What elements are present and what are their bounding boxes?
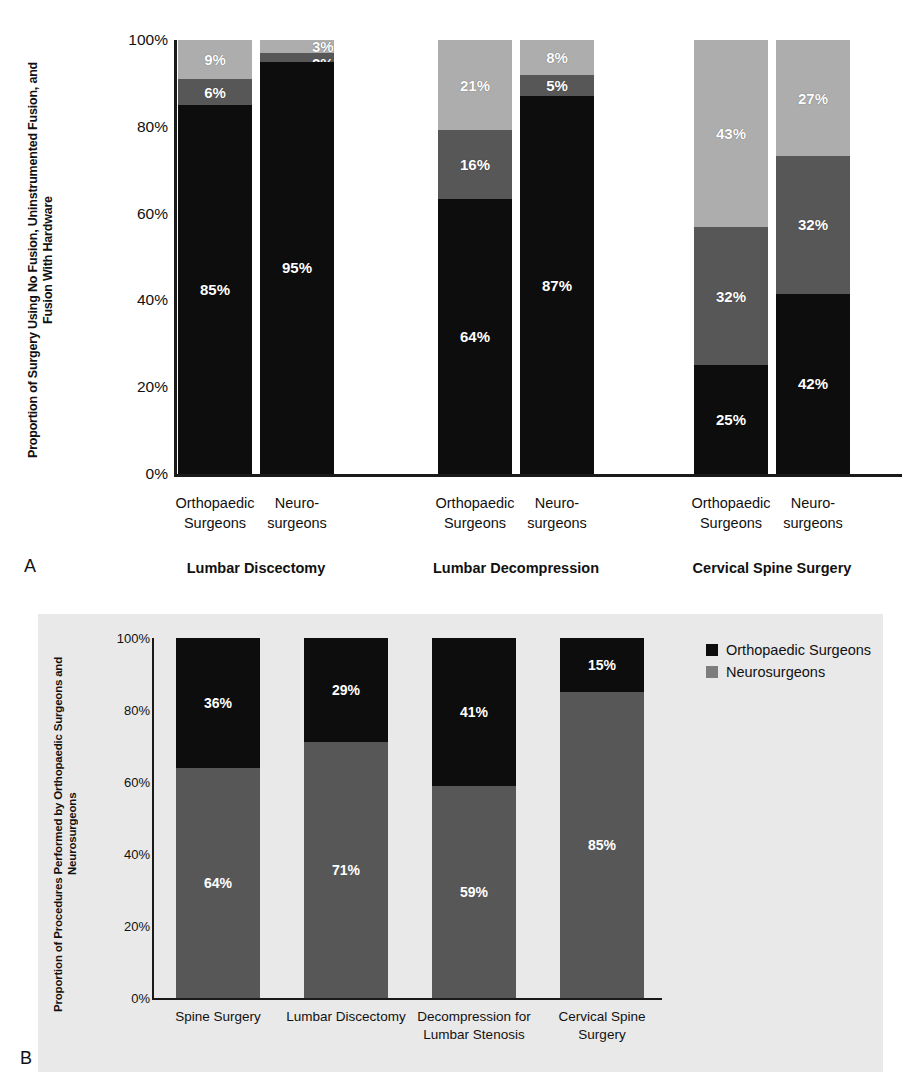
panel-b-bar-segment[interactable]: 36% xyxy=(176,638,260,768)
panel-b-legend: Orthopaedic SurgeonsNeurosurgeons xyxy=(706,642,871,686)
panel-b-bar-segment[interactable]: 41% xyxy=(432,638,516,786)
panel-b-plot-area: 36%64%29%71%41%59%15%85% xyxy=(154,638,662,998)
panel-b-segment-value: 15% xyxy=(588,657,616,673)
panel-a-stacked-bar[interactable]: 27%32%42% xyxy=(776,40,850,474)
panel-a-bar-segment[interactable]: 25% xyxy=(694,365,768,474)
panel-b-y-tick: 40% xyxy=(124,847,150,862)
panel-b-bar-segment[interactable]: 85% xyxy=(560,692,644,998)
panel-a-bar-group: 9%6%85%3%2%95% xyxy=(178,40,338,474)
panel-b-legend-label: Neurosurgeons xyxy=(726,664,825,680)
panel-a-bar-segment[interactable]: 64% xyxy=(438,199,512,474)
panel-b-stacked-bar-chart: Proportion of Procedures Performed by Or… xyxy=(0,600,913,1086)
panel-b-category-label-line1: Lumbar Discectomy xyxy=(276,1008,416,1026)
panel-b-y-axis-label: Proportion of Procedures Performed by Or… xyxy=(52,654,86,1014)
panel-a-bar-segment[interactable]: 32% xyxy=(776,156,850,294)
panel-b-segment-value: 29% xyxy=(332,682,360,698)
panel-a-bar-segment[interactable]: 21% xyxy=(438,40,512,130)
panel-b-stacked-bar[interactable]: 15%85% xyxy=(560,638,644,998)
panel-b-stacked-bar[interactable]: 41%59% xyxy=(432,638,516,998)
panel-a-bar-segment[interactable]: 9% xyxy=(178,40,252,79)
panel-a-segment-value: 87% xyxy=(542,277,572,294)
panel-a-segment-value: 95% xyxy=(282,259,312,276)
panel-b-y-tick: 60% xyxy=(124,775,150,790)
panel-b-bar-segment[interactable]: 29% xyxy=(304,638,388,742)
panel-a-segment-value: 27% xyxy=(798,90,828,107)
panel-b-y-tick: 20% xyxy=(124,919,150,934)
panel-b-stacked-bar[interactable]: 29%71% xyxy=(304,638,388,998)
panel-a-bar-label: Neuro-surgeons xyxy=(242,494,352,533)
panel-a-bar-segment[interactable]: 27% xyxy=(776,40,850,156)
panel-a-stacked-bar-chart: Proportion of Surgery Using No Fusion, U… xyxy=(0,0,913,600)
panel-a-bar-label-line2: surgeons xyxy=(502,514,612,534)
panel-a-y-tick: 60% xyxy=(137,205,168,223)
panel-a-bar-label-line2: surgeons xyxy=(758,514,868,534)
panel-a-stacked-bar[interactable]: 3%2%95% xyxy=(260,40,334,474)
legend-swatch-icon xyxy=(706,666,718,678)
panel-b-category-label-line2: Surgery xyxy=(532,1026,672,1044)
panel-a-segment-value: 6% xyxy=(204,84,226,101)
panel-a-bar-segment[interactable]: 85% xyxy=(178,105,252,474)
panel-a-group-label: Lumbar Decompression xyxy=(416,560,616,576)
panel-a-y-tick: 40% xyxy=(137,291,168,309)
panel-b-category-label: Lumbar Discectomy xyxy=(276,1008,416,1026)
panel-b-bar-segment[interactable]: 71% xyxy=(304,742,388,998)
panel-a-segment-value: 9% xyxy=(204,51,226,68)
panel-b-category-label-line1: Cervical Spine xyxy=(532,1008,672,1026)
panel-a-stacked-bar[interactable]: 43%32%25% xyxy=(694,40,768,474)
panel-b-legend-label: Orthopaedic Surgeons xyxy=(726,642,871,658)
panel-a-y-tick: 20% xyxy=(137,378,168,396)
panel-b-category-label: Spine Surgery xyxy=(148,1008,288,1026)
panel-b-segment-value: 59% xyxy=(460,884,488,900)
panel-a-segment-value: 16% xyxy=(460,156,490,173)
panel-a-bar-segment[interactable]: 6% xyxy=(178,79,252,105)
panel-a-y-tick: 80% xyxy=(137,118,168,136)
panel-a-plot-area: 9%6%85%3%2%95%21%16%64%8%5%87%43%32%25%2… xyxy=(176,40,902,474)
panel-b-bar-segment[interactable]: 64% xyxy=(176,768,260,998)
panel-b-legend-item: Neurosurgeons xyxy=(706,664,871,680)
panel-a-stacked-bar[interactable]: 21%16%64% xyxy=(438,40,512,474)
panel-b-stacked-bar[interactable]: 36%64% xyxy=(176,638,260,998)
panel-a-segment-value: 43% xyxy=(716,125,746,142)
panel-a-bar-label: Neuro-surgeons xyxy=(502,494,612,533)
panel-b-category-label-line1: Spine Surgery xyxy=(148,1008,288,1026)
panel-b-bar-segment[interactable]: 15% xyxy=(560,638,644,692)
panel-a-bar-segment[interactable]: 8% xyxy=(520,40,594,75)
panel-a-bar-group: 21%16%64%8%5%87% xyxy=(438,40,598,474)
panel-b-y-tick: 80% xyxy=(124,703,150,718)
panel-a-x-axis-line xyxy=(174,474,902,477)
panel-a-stacked-bar[interactable]: 9%6%85% xyxy=(178,40,252,474)
panel-b-legend-item: Orthopaedic Surgeons xyxy=(706,642,871,658)
panel-a-segment-value: 21% xyxy=(460,77,490,94)
panel-a-bar-segment[interactable]: 32% xyxy=(694,227,768,366)
panel-a-bar-segment[interactable]: 16% xyxy=(438,130,512,199)
panel-a-bar-segment[interactable]: 95% xyxy=(260,62,334,474)
panel-a-bar-label-line1: Neuro- xyxy=(502,494,612,514)
panel-a-segment-value: 42% xyxy=(798,375,828,392)
panel-a-bar-label-line1: Neuro- xyxy=(758,494,868,514)
panel-b-y-tick: 0% xyxy=(131,991,150,1006)
panel-a-bar-segment[interactable]: 3% xyxy=(260,40,334,53)
panel-b-segment-value: 64% xyxy=(204,875,232,891)
panel-b-segment-value: 71% xyxy=(332,862,360,878)
panel-a-bar-segment[interactable]: 5% xyxy=(520,75,594,97)
panel-a-segment-value: 5% xyxy=(546,77,568,94)
panel-a-bar-segment[interactable]: 87% xyxy=(520,96,594,474)
panel-a-segment-value: 8% xyxy=(546,49,568,66)
panel-a-bar-segment[interactable]: 43% xyxy=(694,40,768,227)
panel-a-stacked-bar[interactable]: 8%5%87% xyxy=(520,40,594,474)
panel-b-category-label: Cervical SpineSurgery xyxy=(532,1008,672,1044)
panel-a-segment-value: 25% xyxy=(716,411,746,428)
panel-b-y-axis-ticks: 0%20%40%60%80%100% xyxy=(88,638,150,998)
panel-b-category-label-line1: Decompression for xyxy=(404,1008,544,1026)
panel-a-bar-segment[interactable]: 42% xyxy=(776,294,850,474)
panel-a-y-tick: 0% xyxy=(146,465,168,483)
panel-b-segment-value: 85% xyxy=(588,837,616,853)
panel-b-y-tick: 100% xyxy=(117,631,150,646)
panel-a-segment-value: 32% xyxy=(798,216,828,233)
panel-b-letter: B xyxy=(20,1048,32,1069)
panel-a-y-axis-label: Proportion of Surgery Using No Fusion, U… xyxy=(26,60,60,460)
panel-b-bar-segment[interactable]: 59% xyxy=(432,786,516,998)
panel-a-bar-segment[interactable]: 2% xyxy=(260,53,334,62)
panel-a-y-tick: 100% xyxy=(128,31,168,49)
panel-a-bar-label: Neuro-surgeons xyxy=(758,494,868,533)
